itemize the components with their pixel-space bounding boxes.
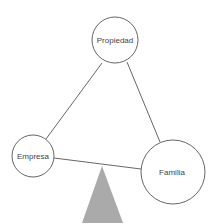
edge-empresa-familia-beam: [54, 158, 141, 169]
node-empresa-label: Empresa: [17, 152, 50, 161]
node-propiedad-label: Propiedad: [97, 36, 133, 45]
node-familia: Familia: [141, 140, 205, 204]
fulcrum-triangle: [82, 166, 123, 223]
balance-diagram: Propiedad Empresa Familia: [0, 0, 217, 224]
edge-propiedad-empresa: [46, 63, 102, 139]
edge-propiedad-familia: [127, 62, 160, 142]
node-empresa: Empresa: [12, 135, 54, 177]
node-propiedad: Propiedad: [92, 17, 138, 63]
node-familia-label: Familia: [159, 168, 185, 177]
